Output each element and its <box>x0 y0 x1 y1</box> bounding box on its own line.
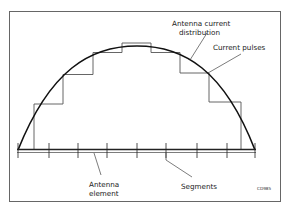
label-current-pulses: Current pulses <box>213 43 266 52</box>
figure-code: CD985 <box>257 186 271 191</box>
label-antenna-current: Antenna current <box>172 19 231 28</box>
label-element: element <box>89 189 119 198</box>
label-segments: Segments <box>181 182 217 191</box>
antenna-diagram: Antenna current distribution Current pul… <box>0 0 291 215</box>
label-distribution: distribution <box>179 28 220 37</box>
label-antenna: Antenna <box>89 180 119 189</box>
figure-frame <box>10 12 281 202</box>
